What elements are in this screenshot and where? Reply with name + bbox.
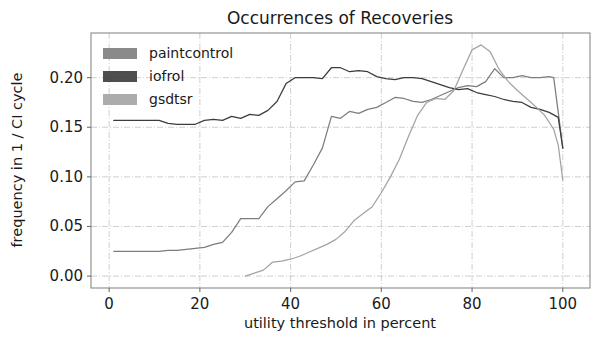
legend-swatch-iofrol: [103, 71, 137, 82]
legend-label-iofrol: iofrol: [149, 68, 184, 84]
chart-canvas: Occurrences of Recoveries 020406080100 0…: [0, 0, 616, 346]
x-tick-label-0: 0: [104, 295, 114, 313]
y-axis-label: frequency in 1 / CI cycle: [9, 72, 25, 247]
x-tick-label-2: 40: [281, 295, 300, 313]
x-tick-label-1: 20: [190, 295, 209, 313]
legend-swatch-paintcontrol: [103, 48, 137, 59]
legend-label-paintcontrol: paintcontrol: [149, 45, 233, 61]
x-tick-label-3: 60: [372, 295, 391, 313]
figure-container: Occurrences of Recoveries 020406080100 0…: [0, 0, 616, 346]
x-axis-label: utility threshold in percent: [244, 315, 436, 331]
legend-swatch-gsdtsr: [103, 94, 137, 105]
y-tick-label-0: 0.00: [50, 267, 83, 285]
y-tick-label-4: 0.20: [50, 69, 83, 87]
x-tick-label-4: 80: [463, 295, 482, 313]
legend-label-gsdtsr: gsdtsr: [149, 91, 193, 107]
y-tick-label-2: 0.10: [50, 168, 83, 186]
x-tick-label-5: 100: [548, 295, 577, 313]
y-tick-label-3: 0.15: [50, 118, 83, 136]
chart-title: Occurrences of Recoveries: [227, 8, 453, 28]
y-tick-label-1: 0.05: [50, 217, 83, 235]
